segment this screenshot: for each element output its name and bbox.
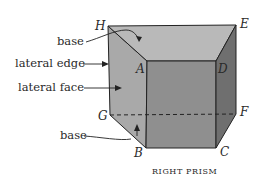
part-label-lateral-face: lateral face (18, 80, 84, 94)
vertex-label-e: E (239, 17, 249, 31)
right-prism-figure: H E A D G F B C base lateral edge latera… (0, 0, 266, 184)
vertex-label-c: C (220, 145, 229, 159)
part-label-base-bottom: base (60, 128, 87, 142)
vertex-label-b: B (133, 146, 143, 160)
vertex-label-d: D (217, 62, 228, 76)
figure-caption: RIGHT PRISM (152, 167, 217, 176)
part-label-base-top: base (57, 34, 84, 48)
part-label-lateral-edge: lateral edge (15, 56, 85, 70)
lateral-edge-arrowhead-icon (102, 61, 109, 67)
vertex-label-a: A (135, 62, 145, 76)
vertex-label-f: F (239, 105, 249, 119)
front-lateral-face (146, 61, 216, 148)
base-bottom-leader (84, 136, 131, 140)
vertex-label-g: G (98, 109, 108, 123)
vertex-label-h: H (94, 19, 106, 33)
